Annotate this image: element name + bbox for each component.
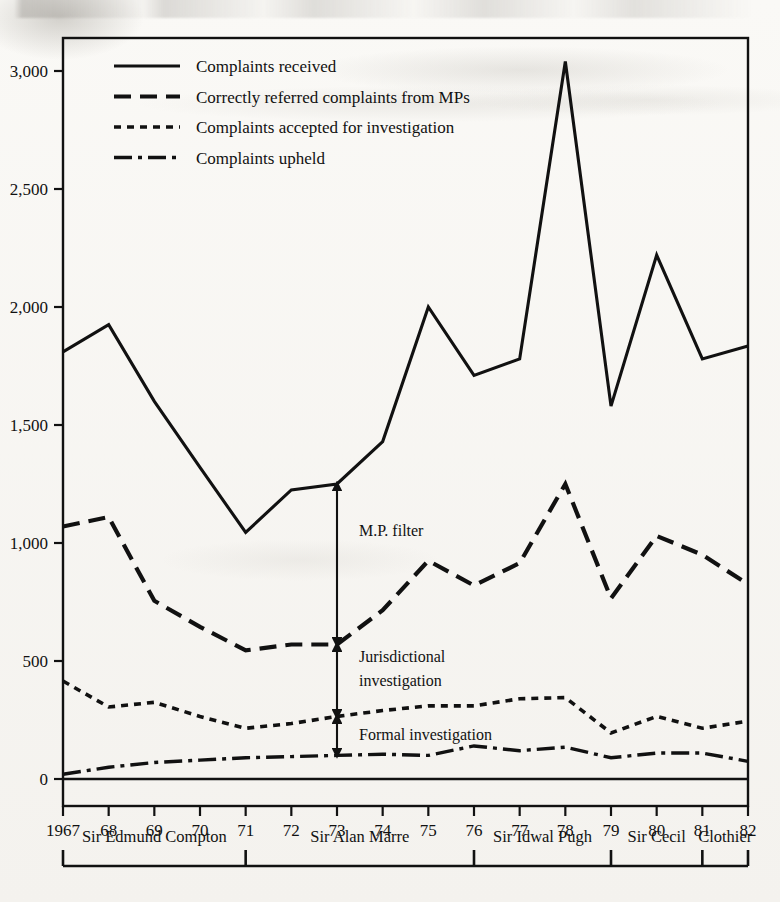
tenure-label-0: Sir Edmund Compton [82, 827, 227, 846]
tenure-label-3: Sir Cecil [628, 827, 687, 846]
x-axis-tick-label: 72 [283, 821, 300, 840]
formal-investigation-label: Formal investigation [359, 726, 492, 744]
legend-label-3: Complaints upheld [196, 149, 325, 168]
tenure-label-1: Sir Alan Marre [310, 827, 409, 846]
x-axis-tick-label: 1967 [46, 821, 81, 840]
jurisdictional-label-line1: Jurisdictional [359, 648, 446, 665]
y-axis-tick-label: 2,000 [10, 298, 48, 317]
tenure-label-4: Clothier [698, 827, 753, 846]
legend-label-1: Correctly referred complaints from MPs [196, 88, 470, 107]
chart-svg: 05001,0001,5002,0002,5003,000 Complaints… [0, 0, 780, 902]
x-axis-tick-label: 76 [466, 821, 483, 840]
legend-label-2: Complaints accepted for investigation [196, 118, 455, 137]
plot-frame [63, 38, 748, 806]
x-axis-ticks [63, 806, 748, 816]
y-axis-tick-label: 500 [23, 652, 49, 671]
y-axis-tick-label: 3,000 [10, 62, 48, 81]
x-axis-tick-label: 71 [237, 821, 254, 840]
series-line-3 [63, 746, 748, 774]
ombudsman-complaints-chart: 05001,0001,5002,0002,5003,000 Complaints… [0, 0, 780, 902]
chart-annotations: M.P. filterJurisdictionalinvestigationFo… [337, 486, 492, 753]
y-axis-ticks [54, 71, 63, 779]
tenure-bands: Sir Edmund ComptonSir Alan MarreSir Idwa… [63, 827, 753, 866]
y-axis-tick-label: 1,500 [10, 416, 48, 435]
x-axis-tick-label: 79 [603, 821, 620, 840]
jurisdictional-label-line2: investigation [359, 672, 442, 690]
x-axis-tick-label: 75 [420, 821, 437, 840]
series-lines [63, 62, 748, 775]
series-line-1 [63, 484, 748, 650]
mp-filter-label: M.P. filter [359, 522, 424, 539]
plot-border [63, 38, 748, 806]
legend-label-0: Complaints received [196, 57, 337, 76]
y-axis-tick-label: 1,000 [10, 534, 48, 553]
y-axis-tick-label: 2,500 [10, 180, 48, 199]
y-axis-labels: 05001,0001,5002,0002,5003,000 [10, 62, 48, 789]
y-axis-tick-label: 0 [40, 770, 49, 789]
chart-legend: Complaints receivedCorrectly referred co… [114, 57, 470, 168]
tenure-label-2: Sir Idwal Pugh [493, 827, 593, 846]
